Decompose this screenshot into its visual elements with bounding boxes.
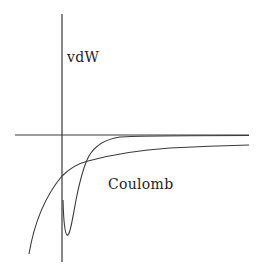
- vdw-label: vdW: [66, 49, 99, 65]
- potential-diagram: vdW Coulomb: [0, 0, 261, 267]
- coulomb-label: Coulomb: [108, 176, 173, 192]
